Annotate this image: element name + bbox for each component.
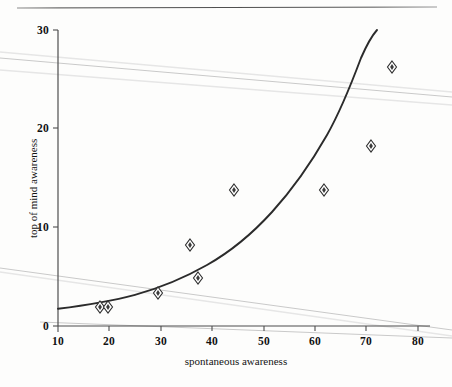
data-point — [367, 140, 376, 152]
data-point — [104, 301, 113, 313]
data-point — [186, 239, 195, 251]
artifact-line-2 — [0, 58, 452, 97]
artifact-line-6 — [40, 322, 452, 338]
x-tick-label-80: 80 — [412, 335, 424, 347]
x-tick-label-40: 40 — [206, 335, 218, 347]
plot-canvas — [0, 0, 452, 387]
artifact-line-4 — [0, 268, 452, 330]
x-axis-title: spontaneous awareness — [185, 355, 287, 367]
axes — [58, 30, 430, 326]
chart-figure: 30 20 10 0 10 20 30 40 50 60 70 80 spont… — [0, 0, 452, 387]
y-axis-title: top of mind awareness — [27, 139, 39, 238]
data-points — [96, 61, 397, 313]
x-tick-label-20: 20 — [103, 335, 115, 347]
data-point — [320, 184, 329, 196]
x-tick-label-30: 30 — [155, 335, 167, 347]
y-tick-label-0: 0 — [43, 320, 49, 332]
x-tick-label-10: 10 — [52, 335, 64, 347]
y-tick-label-20: 20 — [37, 122, 49, 134]
artifact-line-3 — [0, 70, 452, 105]
x-tick-label-60: 60 — [309, 335, 321, 347]
x-tick-label-70: 70 — [360, 335, 372, 347]
x-tick-label-50: 50 — [258, 335, 270, 347]
y-tick-label-30: 30 — [37, 24, 49, 36]
x-axis-ticks — [58, 326, 418, 332]
data-point — [230, 184, 239, 196]
data-point — [194, 272, 203, 284]
data-point — [388, 61, 397, 73]
artifact-line-1 — [0, 52, 452, 92]
scan-artifacts — [0, 52, 452, 338]
